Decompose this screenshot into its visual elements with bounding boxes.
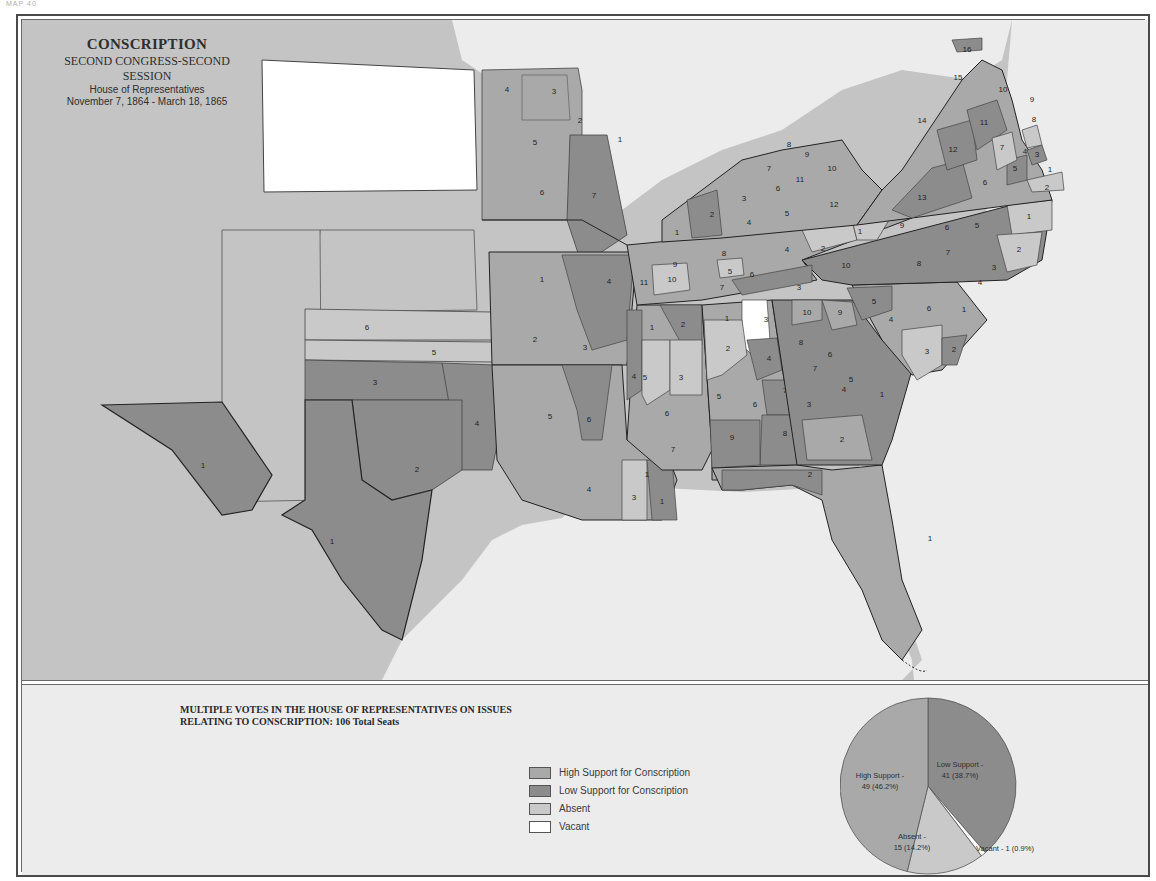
svg-text:2: 2 xyxy=(726,344,731,353)
svg-text:1: 1 xyxy=(928,534,933,543)
svg-text:1: 1 xyxy=(330,537,335,546)
svg-text:5: 5 xyxy=(849,375,854,384)
svg-text:3: 3 xyxy=(992,263,997,272)
svg-text:10: 10 xyxy=(668,275,677,284)
swatch-high-support xyxy=(529,767,551,779)
svg-text:12: 12 xyxy=(830,200,839,209)
svg-text:9: 9 xyxy=(730,433,735,442)
svg-text:1: 1 xyxy=(1048,165,1053,174)
svg-text:10: 10 xyxy=(842,261,851,270)
map-subtitle: SECOND CONGRESS-SECOND SESSION xyxy=(52,54,242,84)
svg-text:1: 1 xyxy=(540,275,545,284)
svg-text:5: 5 xyxy=(975,221,980,230)
svg-text:1: 1 xyxy=(880,390,885,399)
svg-text:4: 4 xyxy=(978,278,983,287)
svg-text:2: 2 xyxy=(710,210,715,219)
svg-text:6: 6 xyxy=(540,188,545,197)
svg-text:6: 6 xyxy=(753,400,758,409)
svg-text:1: 1 xyxy=(660,497,665,506)
svg-text:1: 1 xyxy=(962,305,967,314)
svg-text:4: 4 xyxy=(607,277,612,286)
svg-text:4: 4 xyxy=(767,354,772,363)
svg-text:16: 16 xyxy=(963,45,972,54)
svg-text:5: 5 xyxy=(533,138,538,147)
svg-text:13: 13 xyxy=(918,193,927,202)
svg-text:10: 10 xyxy=(828,164,837,173)
svg-text:6: 6 xyxy=(665,409,670,418)
votes-title-line2: RELATING TO CONSCRIPTION: 106 Total Seat… xyxy=(180,716,512,728)
legend-label: Absent xyxy=(559,803,590,814)
svg-text:7: 7 xyxy=(671,445,676,454)
svg-text:2: 2 xyxy=(415,465,420,474)
svg-text:6: 6 xyxy=(365,323,370,332)
svg-text:4: 4 xyxy=(1023,147,1028,156)
svg-text:1: 1 xyxy=(858,227,863,236)
legend-item-low-support: Low Support for Conscription xyxy=(529,782,690,799)
svg-text:4: 4 xyxy=(505,85,510,94)
svg-text:7: 7 xyxy=(767,164,772,173)
svg-text:8: 8 xyxy=(722,249,727,258)
al-9 xyxy=(710,420,760,468)
map-date-range: November 7, 1864 - March 18, 1865 xyxy=(52,96,242,108)
svg-text:3: 3 xyxy=(807,400,812,409)
svg-text:6: 6 xyxy=(776,184,781,193)
svg-text:1: 1 xyxy=(725,314,730,323)
tx-3 xyxy=(305,360,462,400)
svg-text:8: 8 xyxy=(787,140,792,149)
legend-label: Vacant xyxy=(559,821,589,832)
svg-text:2: 2 xyxy=(840,435,845,444)
svg-text:4: 4 xyxy=(747,218,752,227)
svg-text:3: 3 xyxy=(925,347,930,356)
svg-text:5: 5 xyxy=(728,267,733,276)
svg-text:4: 4 xyxy=(889,315,894,324)
svg-text:11: 11 xyxy=(980,118,989,127)
votes-title: MULTIPLE VOTES IN THE HOUSE OF REPRESENT… xyxy=(180,704,512,728)
svg-text:4: 4 xyxy=(632,372,637,381)
pie-label-vacant: Vacant - 1 (0.9%) xyxy=(976,844,1034,853)
svg-text:6: 6 xyxy=(983,178,988,187)
svg-text:5: 5 xyxy=(717,392,722,401)
svg-text:1: 1 xyxy=(650,323,655,332)
map-area: 6 5 3 4 2 1 1 4 3 2 5 6 7 1 1 2 3 xyxy=(22,20,1148,680)
legend-label: Low Support for Conscription xyxy=(559,785,688,796)
svg-text:8: 8 xyxy=(1032,115,1037,124)
svg-text:11: 11 xyxy=(640,278,649,287)
svg-text:9: 9 xyxy=(838,308,843,317)
svg-text:7: 7 xyxy=(1000,143,1005,152)
svg-text:2: 2 xyxy=(808,470,813,479)
svg-text:10: 10 xyxy=(999,85,1008,94)
svg-text:6: 6 xyxy=(750,270,755,279)
svg-text:3: 3 xyxy=(373,378,378,387)
svg-text:2: 2 xyxy=(578,116,583,125)
svg-text:5: 5 xyxy=(1013,164,1018,173)
svg-text:9: 9 xyxy=(1030,95,1035,104)
ga-2 xyxy=(802,415,872,460)
svg-text:5: 5 xyxy=(432,348,437,357)
svg-text:5: 5 xyxy=(643,373,648,382)
svg-text:15: 15 xyxy=(954,73,963,82)
svg-text:6: 6 xyxy=(587,415,592,424)
svg-text:3: 3 xyxy=(632,493,637,502)
svg-text:4: 4 xyxy=(842,385,847,394)
svg-text:2: 2 xyxy=(533,335,538,344)
svg-text:2: 2 xyxy=(952,345,957,354)
svg-text:5: 5 xyxy=(785,209,790,218)
summary-panel: MULTIPLE VOTES IN THE HOUSE OF REPRESENT… xyxy=(22,685,1148,875)
map-chamber: House of Representatives xyxy=(52,84,242,96)
svg-text:4: 4 xyxy=(785,245,790,254)
svg-text:9: 9 xyxy=(673,260,678,269)
legend-item-high-support: High Support for Conscription xyxy=(529,764,690,781)
svg-text:8: 8 xyxy=(799,338,804,347)
svg-text:8: 8 xyxy=(783,429,788,438)
legend-item-absent: Absent xyxy=(529,800,690,817)
votes-title-line1: MULTIPLE VOTES IN THE HOUSE OF REPRESENT… xyxy=(180,704,512,716)
svg-text:6: 6 xyxy=(828,350,833,359)
svg-text:9: 9 xyxy=(805,150,810,159)
svg-text:1: 1 xyxy=(618,135,623,144)
map-title: CONSCRIPTION xyxy=(52,36,242,53)
svg-text:2: 2 xyxy=(681,320,686,329)
ms-3 xyxy=(670,340,702,395)
pie-chart: High Support - 49 (46.2%) Low Support - … xyxy=(840,691,1040,876)
svg-text:10: 10 xyxy=(803,308,812,317)
svg-text:12: 12 xyxy=(949,145,958,154)
